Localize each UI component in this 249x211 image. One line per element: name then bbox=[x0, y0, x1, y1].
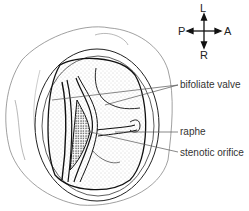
compass-label-left: P bbox=[178, 26, 185, 37]
compass-label-down: R bbox=[200, 50, 208, 61]
label-stenotic-orifice: stenotic orifice bbox=[180, 148, 244, 158]
label-bifoliate-valve: bifoliate valve bbox=[180, 80, 241, 90]
compass-label-up: L bbox=[200, 3, 206, 14]
label-raphe: raphe bbox=[180, 127, 206, 137]
orientation-compass-icon bbox=[187, 14, 221, 48]
valve-illustration bbox=[0, 0, 249, 211]
compass-label-right: A bbox=[224, 26, 231, 37]
